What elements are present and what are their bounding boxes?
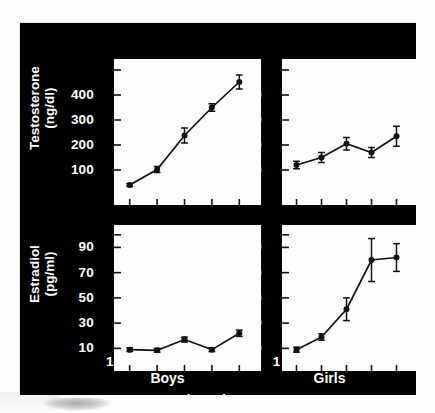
panel-girls-estradiol xyxy=(282,225,417,371)
x-tick-label: 3 xyxy=(318,354,336,369)
figure-plate: Testosterone(ng/dl) Estradiol(pg/ml) 100… xyxy=(20,23,416,395)
y-tick-label: 400 xyxy=(48,88,94,101)
y-tick-label: 40 xyxy=(216,88,262,101)
y-tick-label: 30 xyxy=(48,316,94,329)
figure-root: Testosterone(ng/dl) Estradiol(pg/ml) 100… xyxy=(0,0,435,413)
plot-girls-testosterone xyxy=(282,59,417,205)
y-tick-label: 70 xyxy=(216,266,262,279)
plot-girls-estradiol xyxy=(282,225,417,371)
x-tick-label: 5 xyxy=(368,354,386,369)
y-tick-label: 10 xyxy=(48,341,94,354)
y-axis-title-testosterone: Testosterone(ng/dl) xyxy=(27,33,57,183)
y-tick-label: 20 xyxy=(216,138,262,151)
group-label-boys: Boys xyxy=(94,370,241,386)
x-tick-label: 5 xyxy=(210,354,228,369)
x-tick-label: 4 xyxy=(183,354,201,369)
x-axis-title: Pubertal stage xyxy=(20,392,416,408)
y-tick-label: 30 xyxy=(216,113,262,126)
x-tick-label: 2 xyxy=(128,354,146,369)
y-tick-label: 300 xyxy=(48,113,94,126)
group-label-girls: Girls xyxy=(262,370,397,386)
y-axis-title-line: Estradiol xyxy=(27,199,42,349)
y-tick-label: 200 xyxy=(48,138,94,151)
y-tick-label: 100 xyxy=(48,163,94,176)
y-tick-label: 90 xyxy=(48,240,94,253)
x-tick-label: 1 xyxy=(268,354,286,369)
y-axis-title-line: Testosterone xyxy=(27,33,42,183)
x-tick-label: 3 xyxy=(156,354,174,369)
y-tick-label: 70 xyxy=(48,266,94,279)
y-tick-label: 90 xyxy=(216,240,262,253)
x-tick-label: 2 xyxy=(293,354,311,369)
y-tick-label: 30 xyxy=(216,316,262,329)
y-tick-label: 50 xyxy=(48,291,94,304)
y-tick-label: 50 xyxy=(216,291,262,304)
x-tick-label: 1 xyxy=(101,354,119,369)
y-axis-title-line: (ng/dl) xyxy=(42,33,57,183)
y-tick-label: 10 xyxy=(216,163,262,176)
x-tick-label: 4 xyxy=(343,354,361,369)
y-tick-label: 10 xyxy=(216,341,262,354)
plot-boys-testosterone xyxy=(114,59,261,205)
panel-boys-testosterone xyxy=(114,59,261,205)
panel-girls-testosterone xyxy=(282,59,417,205)
